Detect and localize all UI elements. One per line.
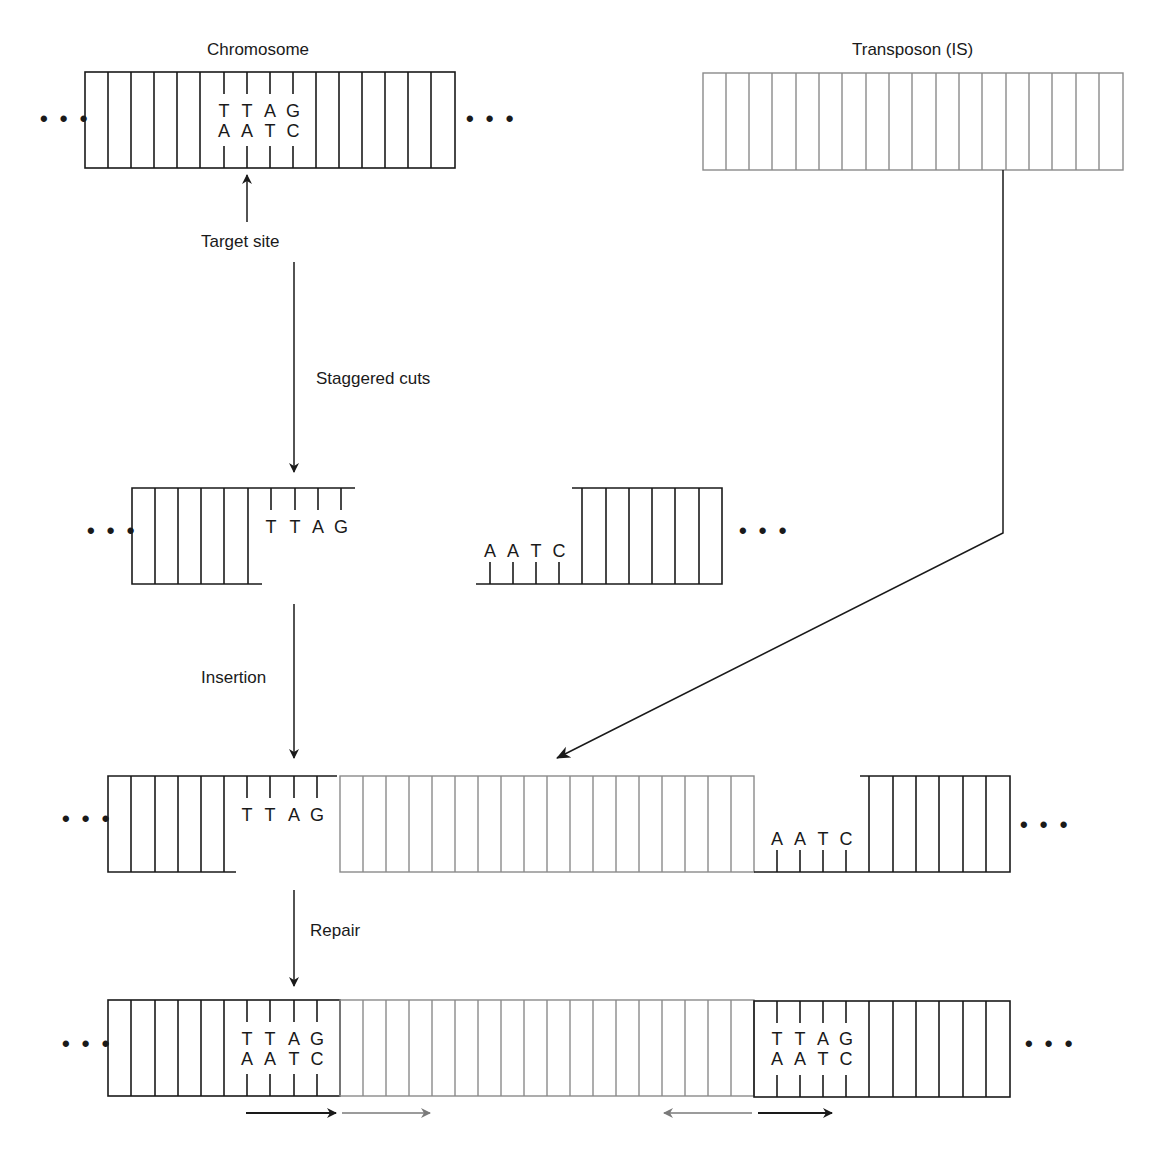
staggered-cuts-label: Staggered cuts	[316, 369, 430, 389]
base: T	[528, 542, 544, 560]
base: A	[815, 1030, 831, 1048]
ellipsis-chromosome-right: • • •	[466, 106, 516, 132]
insertion-left-chromosome	[108, 776, 337, 872]
base: G	[838, 1030, 854, 1048]
base: T	[769, 1030, 785, 1048]
base: T	[262, 122, 278, 140]
diagram-canvas	[0, 0, 1159, 1174]
base: T	[286, 1050, 302, 1068]
transposon-insertion-arrow	[557, 170, 1003, 758]
repaired-transposon	[340, 1000, 754, 1096]
base: A	[262, 102, 278, 120]
ellipsis-insertion-left: • • •	[62, 806, 112, 832]
base: C	[285, 122, 301, 140]
base: T	[239, 102, 255, 120]
repaired-right-chromosome	[754, 1001, 1010, 1097]
base: C	[838, 1050, 854, 1068]
base: T	[262, 1030, 278, 1048]
base: A	[286, 806, 302, 824]
base: T	[815, 830, 831, 848]
target-site-label: Target site	[201, 232, 279, 252]
base: A	[482, 542, 498, 560]
base: A	[262, 1050, 278, 1068]
base: A	[239, 1050, 255, 1068]
base: A	[286, 1030, 302, 1048]
ellipsis-chromosome-left: • • •	[40, 106, 90, 132]
base: T	[287, 518, 303, 536]
base: A	[769, 830, 785, 848]
chromosome-label: Chromosome	[207, 40, 309, 60]
base: T	[239, 806, 255, 824]
base: T	[263, 518, 279, 536]
base: G	[309, 806, 325, 824]
base: A	[216, 122, 232, 140]
base: C	[551, 542, 567, 560]
cut-right-fragment	[476, 488, 722, 584]
transposition-diagram: Chromosome Transposon (IS) Target site S…	[0, 0, 1159, 1174]
base: A	[792, 1050, 808, 1068]
repair-label: Repair	[310, 921, 360, 941]
base: C	[309, 1050, 325, 1068]
repaired-left-chromosome	[108, 1000, 340, 1096]
ellipsis-repair-left: • • •	[62, 1031, 112, 1057]
base: T	[792, 1030, 808, 1048]
base: T	[815, 1050, 831, 1068]
base: G	[309, 1030, 325, 1048]
ellipsis-cut-left: • • •	[87, 518, 137, 544]
transposon-label: Transposon (IS)	[852, 40, 973, 60]
transposon-dna	[703, 73, 1123, 170]
base: A	[769, 1050, 785, 1068]
ellipsis-repair-right: • • •	[1025, 1031, 1075, 1057]
ellipsis-insertion-right: • • •	[1020, 812, 1070, 838]
base: A	[505, 542, 521, 560]
base: C	[838, 830, 854, 848]
base: G	[333, 518, 349, 536]
base: A	[792, 830, 808, 848]
base: T	[262, 806, 278, 824]
base: T	[216, 102, 232, 120]
base: A	[239, 122, 255, 140]
insertion-right-chromosome	[754, 776, 1010, 872]
base: G	[285, 102, 301, 120]
insertion-label: Insertion	[201, 668, 266, 688]
insertion-transposon	[340, 776, 754, 872]
base: T	[239, 1030, 255, 1048]
base: A	[310, 518, 326, 536]
ellipsis-cut-right: • • •	[739, 518, 789, 544]
